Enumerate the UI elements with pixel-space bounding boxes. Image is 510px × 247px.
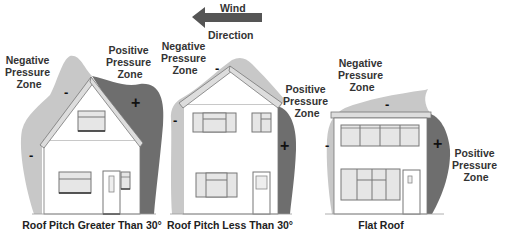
negative-zone-label: Negative Pressure Zone <box>161 40 209 76</box>
minus-sign: - <box>64 85 68 100</box>
wind-direction-arrow: Wind Direction <box>192 2 262 41</box>
positive-zone-label: Positive Pressure Zone <box>106 44 154 80</box>
negative-zone-label: Negative Pressure Zone <box>5 54 53 90</box>
positive-pressure-zone <box>427 113 450 214</box>
positive-zone-label: Positive Pressure Zone <box>283 83 331 119</box>
minus-sign: - <box>173 113 177 128</box>
window <box>59 172 91 193</box>
wind-label: Wind <box>220 2 246 14</box>
minus-sign: - <box>325 138 329 153</box>
direction-label: Direction <box>208 29 254 41</box>
house-shallow-roof: - - + Negative Pressure Zone Positive Pr… <box>161 40 331 231</box>
caption-shallow-roof: Roof Pitch Less Than 30° <box>167 219 293 231</box>
plus-sign: + <box>280 137 289 154</box>
wind-pressure-diagram: Wind Direction - - + Negative Pr <box>0 0 510 247</box>
window <box>121 172 130 189</box>
plus-sign: + <box>131 94 140 111</box>
caption-flat-roof: Flat Roof <box>358 219 404 231</box>
window <box>78 111 105 131</box>
minus-sign: - <box>385 97 389 112</box>
positive-zone-label: Positive Pressure Zone <box>452 147 500 183</box>
minus-sign: - <box>29 148 33 163</box>
plus-sign: + <box>433 135 442 152</box>
house-steep-roof: - - + Negative Pressure Zone Positive Pr… <box>5 44 163 231</box>
caption-steep-roof: Roof Pitch Greater Than 30° <box>22 219 162 231</box>
negative-zone-label: Negative Pressure Zone <box>338 57 386 93</box>
positive-pressure-zone <box>278 107 296 214</box>
minus-sign: - <box>215 61 219 76</box>
roof-parapet <box>331 112 431 118</box>
house-flat-roof: - - + Negative Pressure Zone Positive Pr… <box>325 57 500 231</box>
window <box>341 169 400 200</box>
